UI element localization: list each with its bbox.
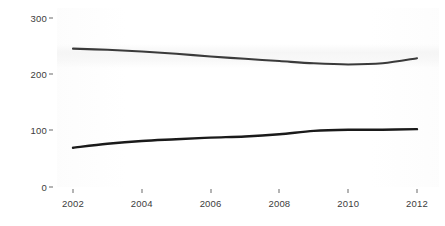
y-tick-label-300: 300 [31,12,47,23]
plot-area [57,8,439,187]
line-series-lower [73,129,417,148]
y-tick-label-100: 100 [31,125,47,136]
line-chart: 300 200 100 0 2002 2004 2006 2008 2010 2… [0,0,445,226]
y-axis: 300 200 100 0 [0,0,57,226]
y-tick-mark-0 [49,186,53,187]
x-tick-mark-2010 [348,189,349,193]
x-tick-mark-2004 [141,189,142,193]
x-tick-mark-2002 [73,189,74,193]
x-tick-label-2012: 2012 [406,198,428,209]
y-tick-label-0: 0 [42,181,47,192]
y-tick-mark-300 [49,17,53,18]
x-tick-label-2002: 2002 [62,198,84,209]
x-tick-mark-2008 [279,189,280,193]
line-series-upper [73,49,417,65]
series-canvas [57,8,439,187]
x-tick-label-2006: 2006 [200,198,222,209]
x-tick-mark-2012 [417,189,418,193]
x-axis: 2002 2004 2006 2008 2010 2012 [57,187,439,226]
x-tick-mark-2006 [210,189,211,193]
y-tick-label-200: 200 [31,69,47,80]
x-tick-label-2008: 2008 [268,198,290,209]
x-tick-label-2010: 2010 [337,198,359,209]
y-tick-mark-200 [49,74,53,75]
y-tick-mark-100 [49,130,53,131]
x-tick-label-2004: 2004 [131,198,153,209]
